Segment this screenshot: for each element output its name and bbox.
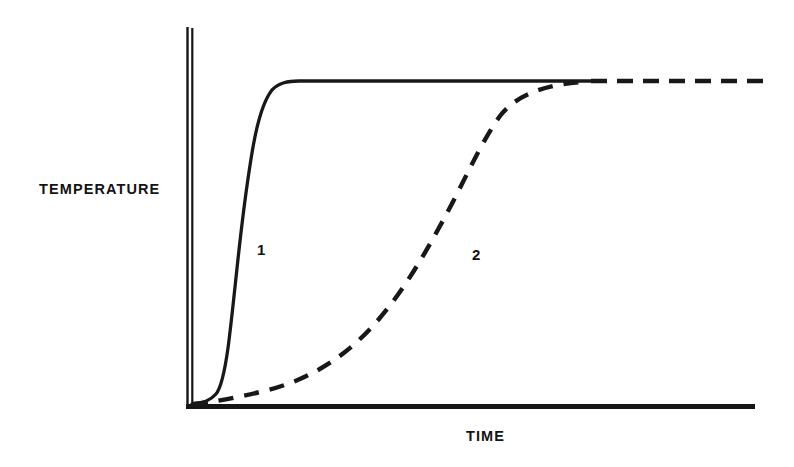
curve-2-slow-dashed — [193, 82, 588, 404]
x-axis-title: TIME — [466, 428, 505, 444]
curve-2-label: 2 — [472, 246, 480, 263]
y-axis — [188, 27, 193, 407]
y-axis-title: TEMPERATURE — [39, 181, 160, 197]
curve-1-fast-solid — [192, 81, 591, 404]
curve-1-label: 1 — [257, 241, 265, 258]
figure-canvas: TEMPERATURE TIME 1 2 — [0, 0, 794, 467]
plot-area — [0, 0, 794, 467]
